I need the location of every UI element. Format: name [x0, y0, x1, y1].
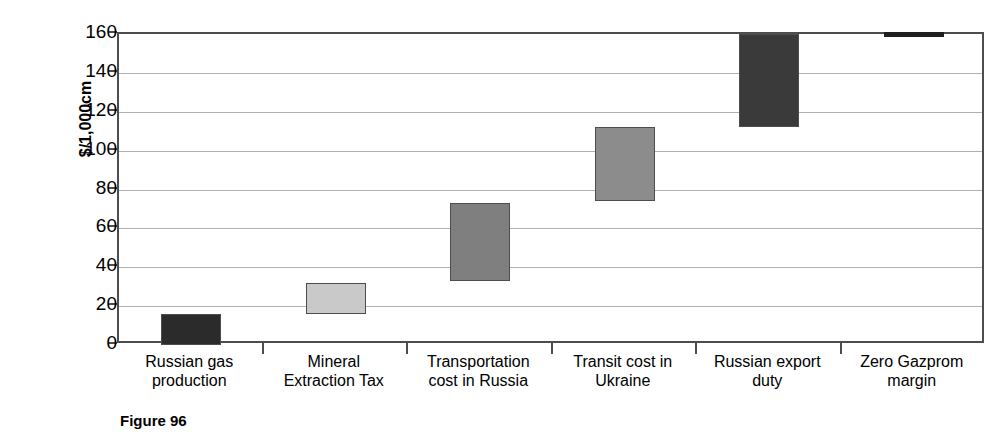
plot-area [117, 32, 984, 343]
x-axis-label: MineralExtraction Tax [262, 352, 407, 390]
y-tick-label: 80 [49, 178, 117, 197]
y-tick-label: 60 [49, 216, 117, 235]
y-tick-label: 160 [49, 22, 117, 41]
x-axis-label: Zero Gazprommargin [840, 352, 985, 390]
y-tick-label: 100 [49, 139, 117, 158]
y-axis-ticks: 020406080100120140160 [38, 32, 117, 343]
gridline [119, 228, 982, 229]
x-axis-label: Transportationcost in Russia [406, 352, 551, 390]
figure-96-waterfall-chart: $/1,000cm 020406080100120140160 Russian … [0, 0, 995, 442]
x-axis-label-line: Transportation [406, 352, 551, 371]
x-axis-label-line: Russian export [695, 352, 840, 371]
x-axis-label-line: production [117, 371, 262, 390]
bar [739, 34, 799, 127]
gridline [119, 112, 982, 113]
y-tick-label: 140 [49, 61, 117, 80]
bar [306, 283, 366, 314]
x-axis-label-line: Mineral [262, 352, 407, 371]
bar [595, 127, 655, 201]
x-axis-label-line: Transit cost in [551, 352, 696, 371]
x-axis-label-line: Extraction Tax [262, 371, 407, 390]
gridline [119, 73, 982, 74]
x-axis-label-line: cost in Russia [406, 371, 551, 390]
bar [161, 314, 221, 345]
gridline [119, 151, 982, 152]
y-tick-label: 120 [49, 100, 117, 119]
y-tick-label: 20 [49, 294, 117, 313]
bar [450, 203, 510, 281]
x-axis-label-line: Zero Gazprom [840, 352, 985, 371]
x-axis-label: Transit cost inUkraine [551, 352, 696, 390]
x-axis-label-line: margin [840, 371, 985, 390]
gridline [119, 267, 982, 268]
x-axis-label-line: duty [695, 371, 840, 390]
x-axis-label: Russian exportduty [695, 352, 840, 390]
x-axis-label-line: Russian gas [117, 352, 262, 371]
figure-caption: Figure 96 [120, 412, 187, 429]
y-tick-label: 0 [49, 333, 117, 352]
gridline [119, 190, 982, 191]
x-axis-label: Russian gasproduction [117, 352, 262, 390]
y-tick-label: 40 [49, 255, 117, 274]
gridline [119, 306, 982, 307]
x-axis-label-line: Ukraine [551, 371, 696, 390]
bar [884, 32, 944, 37]
